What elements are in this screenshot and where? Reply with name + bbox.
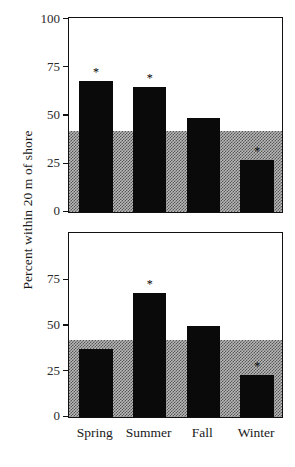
y-axis-tick-label: 25 xyxy=(26,364,60,377)
y-axis-tick-label: 100 xyxy=(26,12,60,25)
bar xyxy=(133,87,166,212)
x-axis-label-fall: Fall xyxy=(176,424,230,442)
bar xyxy=(79,81,112,212)
significance-asterisk: * xyxy=(89,68,103,76)
y-axis-tick-label-container: 75 xyxy=(22,272,60,285)
bar xyxy=(133,293,166,417)
y-axis-tick-label: 50 xyxy=(26,108,60,121)
y-axis-tick-label-container: 25 xyxy=(22,156,60,169)
bottom-panel-plot-area: ** xyxy=(68,232,283,418)
bar xyxy=(240,375,273,417)
x-axis-label-winter: Winter xyxy=(229,424,283,442)
x-axis-category-labels: SpringSummerFallWinter xyxy=(68,424,283,448)
top-panel-plot-area: *** xyxy=(68,17,283,213)
significance-asterisk: * xyxy=(143,280,157,288)
bar xyxy=(79,349,112,417)
y-axis-tick-label: 0 xyxy=(26,409,60,422)
bar xyxy=(187,118,220,212)
y-axis-tick-label: 25 xyxy=(26,156,60,169)
bar-group-top: *** xyxy=(69,18,282,212)
figure: Percent within 20 m of shore 0255075100 … xyxy=(0,0,295,467)
y-axis-tick-label-container: 100 xyxy=(22,12,60,25)
y-axis-tick-label: 75 xyxy=(26,272,60,285)
significance-asterisk: * xyxy=(250,147,264,155)
y-axis-tick-label: 0 xyxy=(26,204,60,217)
bar xyxy=(187,326,220,417)
y-axis-tick-label-container: 75 xyxy=(22,60,60,73)
y-axis-tick-label-container: 50 xyxy=(22,318,60,331)
y-axis-tick-label-container: 0 xyxy=(22,204,60,217)
bar-group-bottom: ** xyxy=(69,233,282,417)
x-axis-label-spring: Spring xyxy=(68,424,122,442)
bar xyxy=(240,160,273,212)
y-axis-tick-label: 50 xyxy=(26,318,60,331)
significance-asterisk: * xyxy=(250,362,264,370)
x-axis-label-summer: Summer xyxy=(122,424,176,442)
significance-asterisk: * xyxy=(143,74,157,82)
y-axis-tick-label-container: 25 xyxy=(22,364,60,377)
y-axis-tick-label-container: 50 xyxy=(22,108,60,121)
y-axis-tick-label: 75 xyxy=(26,60,60,73)
y-axis-tick-label-container: 0 xyxy=(22,409,60,422)
